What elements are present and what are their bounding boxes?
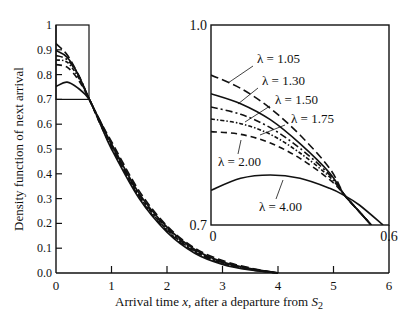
inset-y-bottom-label: 0.7 (190, 218, 208, 233)
inset-x-left-label: 0 (210, 229, 217, 244)
y-tick-label: 0.6 (37, 117, 52, 131)
x-axis-ticks: 0123456 (53, 266, 393, 293)
x-tick-label: 5 (330, 278, 337, 293)
inset-chart: 1.0 0.7 0 0.6 λ = 1.05λ = 1.30λ = 1.50λ … (190, 18, 398, 244)
inset-label-lambda: λ = 1.50 (275, 92, 318, 107)
x-axis-label: Arrival time x, after a departure from S… (115, 294, 323, 311)
y-tick-label: 0.2 (37, 216, 52, 230)
x-tick-label: 3 (219, 278, 226, 293)
y-tick-label: 0.7 (37, 92, 52, 106)
y-tick-label: 0.8 (37, 68, 52, 82)
y-tick-label: 0.4 (37, 167, 52, 181)
y-axis-label: Density function of next arrival (11, 67, 26, 231)
inset-label-lambda: λ = 1.75 (291, 111, 334, 126)
y-tick-label: 0.0 (37, 266, 52, 280)
inset-y-top-label: 1.0 (190, 18, 208, 33)
x-tick-label: 1 (108, 278, 115, 293)
y-tick-label: 0.1 (37, 241, 52, 255)
inset-label-lambda: λ = 2.00 (218, 154, 261, 169)
inset-label-lambda: λ = 1.05 (257, 51, 300, 66)
y-tick-label: 0.5 (37, 142, 52, 156)
x-tick-label: 2 (164, 278, 171, 293)
y-tick-label: 1 (46, 18, 52, 32)
y-axis-ticks: 0.00.10.20.30.40.50.60.70.80.91 (37, 18, 62, 280)
x-tick-label: 6 (386, 278, 393, 293)
inset-x-right-label: 0.6 (380, 229, 398, 244)
y-tick-label: 0.3 (37, 192, 52, 206)
y-tick-label: 0.9 (37, 43, 52, 57)
inset-label-lambda: λ = 1.30 (262, 73, 305, 88)
inset-label-lambda: λ = 4.00 (259, 199, 302, 214)
density-chart: 0123456 0.00.10.20.30.40.50.60.70.80.91 … (0, 0, 415, 320)
x-tick-label: 0 (53, 278, 60, 293)
x-tick-label: 4 (275, 278, 282, 293)
